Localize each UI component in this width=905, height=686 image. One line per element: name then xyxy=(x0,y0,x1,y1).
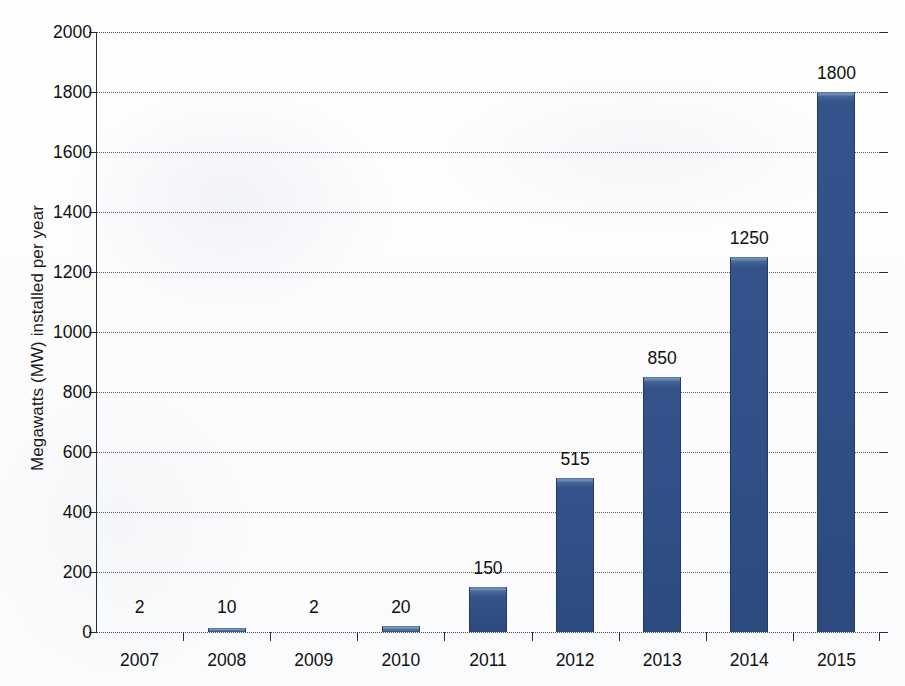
plot-area: 0200400600800100012001400160018002000 21… xyxy=(96,32,880,632)
bar-value-label-2013: 850 xyxy=(648,348,677,369)
y-axis-right-tick-1000 xyxy=(879,332,888,333)
x-axis-tick-7 xyxy=(706,632,707,641)
y-axis-right-tick-800 xyxy=(879,392,888,393)
bar-2010 xyxy=(382,626,420,632)
bar-chart-figure: Megawatts (MW) installed per year 020040… xyxy=(0,0,905,686)
y-axis-right-tick-200 xyxy=(879,572,888,573)
y-axis-tick-label-800: 800 xyxy=(2,382,92,403)
x-axis-label-2007: 2007 xyxy=(120,650,159,671)
x-axis-label-2011: 2011 xyxy=(469,650,507,671)
gridline-1800 xyxy=(96,92,880,93)
x-axis-label-2010: 2010 xyxy=(381,650,420,671)
bar-2014 xyxy=(730,257,768,632)
x-axis-tick-1 xyxy=(183,632,184,641)
bar-value-label-2011: 150 xyxy=(473,558,502,579)
y-axis-tick-label-600: 600 xyxy=(2,442,92,463)
x-axis-label-2008: 2008 xyxy=(207,650,246,671)
bar-value-label-2009: 2 xyxy=(309,597,319,618)
y-axis-right-tick-1400 xyxy=(879,212,888,213)
x-axis-label-2012: 2012 xyxy=(556,650,595,671)
y-axis-right-tick-1600 xyxy=(879,152,888,153)
x-axis-label-2013: 2013 xyxy=(643,650,682,671)
y-axis-right-tick-1200 xyxy=(879,272,888,273)
y-axis-tick-label-1800: 1800 xyxy=(2,82,92,103)
x-axis-label-2014: 2014 xyxy=(730,650,769,671)
x-axis-label-2015: 2015 xyxy=(817,650,856,671)
y-axis-tick-label-1000: 1000 xyxy=(2,322,92,343)
bar-2012 xyxy=(556,478,594,633)
x-axis-tick-4 xyxy=(444,632,445,641)
y-axis-tick-label-200: 200 xyxy=(2,562,92,583)
bar-2008 xyxy=(208,628,246,632)
x-axis-tick-3 xyxy=(357,632,358,641)
bar-2011 xyxy=(469,587,507,632)
y-axis-tick-label-1200: 1200 xyxy=(2,262,92,283)
x-axis-tick-5 xyxy=(532,632,533,641)
bar-value-label-2012: 515 xyxy=(561,449,590,470)
x-axis-tick-8 xyxy=(793,632,794,641)
y-axis-right-tick-0 xyxy=(879,632,888,633)
gridline-2000 xyxy=(96,32,880,33)
y-axis-tick-label-400: 400 xyxy=(2,502,92,523)
x-axis-label-2009: 2009 xyxy=(294,650,333,671)
bar-value-label-2010: 20 xyxy=(391,597,410,618)
y-axis-right-tick-2000 xyxy=(879,32,888,33)
y-axis-right-tick-600 xyxy=(879,452,888,453)
bar-2013 xyxy=(643,377,681,632)
bar-value-label-2008: 10 xyxy=(217,597,236,618)
y-axis-tick-label-1400: 1400 xyxy=(2,202,92,223)
bar-2015 xyxy=(817,92,855,632)
gridline-1600 xyxy=(96,152,880,153)
y-axis-tick-label-1600: 1600 xyxy=(2,142,92,163)
y-axis-right-tick-1800 xyxy=(879,92,888,93)
y-axis-right-tick-400 xyxy=(879,512,888,513)
bar-value-label-2014: 1250 xyxy=(730,228,769,249)
gridline-0 xyxy=(96,632,880,633)
y-axis-tick-label-2000: 2000 xyxy=(2,22,92,43)
bar-value-label-2015: 1800 xyxy=(817,63,856,84)
x-axis-end-tick xyxy=(879,632,880,641)
x-axis-tick-6 xyxy=(619,632,620,641)
x-axis-tick-2 xyxy=(270,632,271,641)
y-axis-tick-label-0: 0 xyxy=(2,622,92,643)
gridline-1400 xyxy=(96,212,880,213)
bar-value-label-2007: 2 xyxy=(135,597,145,618)
